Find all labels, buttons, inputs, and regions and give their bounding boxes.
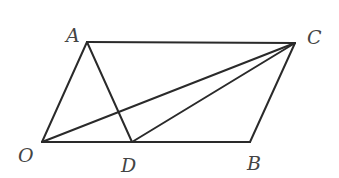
point-label-a: A <box>64 24 80 46</box>
labels-group: A C O D B <box>18 24 322 176</box>
diagram-svg: A C O D B <box>0 0 339 178</box>
point-label-c: C <box>307 26 322 48</box>
point-label-b: B <box>246 152 261 174</box>
point-label-d: D <box>120 154 136 176</box>
segment-dc <box>132 43 295 142</box>
point-label-o: O <box>18 144 34 166</box>
geometry-diagram: A C O D B <box>0 0 339 178</box>
segment-ad <box>87 42 132 142</box>
segments-group <box>42 42 295 142</box>
segment-ac <box>87 42 295 43</box>
